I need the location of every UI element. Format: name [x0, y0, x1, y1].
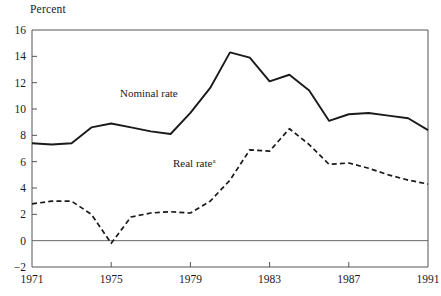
series-line-nominal-rate: [32, 52, 428, 144]
y-axis-tick-labels: 1614121086420−2: [14, 24, 27, 273]
y-tick-label: 16: [15, 24, 27, 36]
x-tick-label: 1983: [258, 273, 281, 285]
chart-plot-area: 1614121086420−2 197119751979198319871991…: [0, 0, 441, 296]
footnote-marker: a: [212, 157, 216, 165]
y-tick-label: 6: [20, 156, 26, 168]
x-tick-label: 1975: [100, 273, 123, 285]
y-tick-label: 2: [20, 208, 26, 220]
series-line-real-rate: [32, 129, 428, 244]
x-tick-label: 1979: [179, 273, 202, 285]
y-axis-tick-marks: [32, 56, 37, 214]
x-axis-tick-labels: 197119751979198319871991: [21, 273, 440, 285]
y-tick-label: 0: [20, 235, 26, 247]
x-tick-label: 1971: [21, 273, 44, 285]
plot-border: [32, 30, 428, 267]
y-tick-label: −2: [14, 261, 26, 273]
y-tick-label: 10: [15, 103, 27, 115]
interest-rate-line-chart: Percent 1614121086420−2 1971197519791983…: [0, 0, 441, 296]
y-tick-label: 14: [15, 50, 27, 62]
x-tick-label: 1991: [417, 273, 440, 285]
data-series-group: [32, 52, 428, 243]
series-annotation: Real ratea: [173, 157, 216, 169]
series-annotation: Nominal rate: [120, 87, 178, 99]
y-tick-label: 8: [20, 129, 26, 141]
y-tick-label: 4: [20, 182, 26, 194]
plot-frame: [32, 30, 428, 267]
x-tick-label: 1987: [337, 273, 360, 285]
y-tick-label: 12: [15, 77, 27, 89]
x-axis-tick-marks: [111, 262, 349, 267]
